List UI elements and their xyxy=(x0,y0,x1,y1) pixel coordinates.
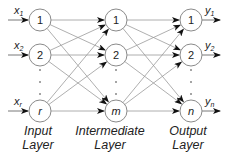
intermediate-layer-label-line1: Intermediate xyxy=(75,124,145,138)
output-layer-label-line2: Layer xyxy=(172,138,204,152)
layer-labels: Input Layer Intermediate Layer Output La… xyxy=(22,124,207,152)
neural-network-diagram: 12r12m12n x1x2xry1y2yn Input Layer Inter… xyxy=(0,0,230,160)
ellipsis-dot xyxy=(39,69,41,71)
output-node: 2 xyxy=(180,44,202,66)
input-layer-label-line1: Input xyxy=(24,124,52,138)
connection-edge xyxy=(125,62,182,104)
output-variable-label: yn xyxy=(204,95,215,108)
output-layer-label-line1: Output xyxy=(169,124,207,138)
input-variable-label: xr xyxy=(13,95,23,108)
ellipsis-dots xyxy=(39,69,192,95)
node-label: 1 xyxy=(113,14,119,26)
ellipsis-dot xyxy=(115,93,117,95)
input-node: 1 xyxy=(29,9,51,31)
ellipsis-dot xyxy=(115,81,117,83)
node-label: 1 xyxy=(37,14,43,26)
output-variable-label: y1 xyxy=(204,4,215,17)
intermediate-node: 2 xyxy=(105,44,127,66)
node-label: m xyxy=(111,105,120,117)
nodes: 12r12m12n xyxy=(29,9,202,122)
connection-edge xyxy=(123,29,183,102)
ellipsis-dot xyxy=(39,93,41,95)
intermediate-node: m xyxy=(105,100,127,122)
connection-edge xyxy=(125,62,182,104)
node-label: 1 xyxy=(188,14,194,26)
node-label: 2 xyxy=(37,49,43,61)
output-variable-label: y2 xyxy=(204,39,215,52)
ellipsis-dot xyxy=(190,81,192,83)
connection-edge xyxy=(49,62,106,104)
node-label: 2 xyxy=(113,49,119,61)
intermediate-layer-label-line2: Layer xyxy=(94,138,126,152)
input-layer-label-line2: Layer xyxy=(22,138,54,152)
node-label: n xyxy=(188,105,194,117)
intermediate-node: 1 xyxy=(105,9,127,31)
connection-edge xyxy=(123,28,183,101)
output-node: 1 xyxy=(180,9,202,31)
input-variable-label: x2 xyxy=(13,39,24,52)
ellipsis-dot xyxy=(190,93,192,95)
input-node: r xyxy=(29,100,51,122)
node-label: 2 xyxy=(188,49,194,61)
ellipsis-dot xyxy=(190,69,192,71)
connection-edge xyxy=(47,29,108,102)
input-node: 2 xyxy=(29,44,51,66)
input-variable-label: x1 xyxy=(13,4,24,17)
output-node: n xyxy=(180,100,202,122)
connection-edge xyxy=(49,62,106,104)
ellipsis-dot xyxy=(115,69,117,71)
ellipsis-dot xyxy=(39,81,41,83)
connection-edge xyxy=(47,28,108,101)
